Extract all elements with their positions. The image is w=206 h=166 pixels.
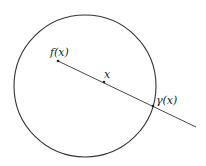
point-f-x — [57, 60, 60, 63]
label-gamma-x: γ(x) — [156, 94, 177, 107]
point-gamma-x — [152, 105, 155, 108]
point-x — [103, 81, 106, 84]
label-f-x: f(x) — [49, 46, 69, 59]
circle-domain — [14, 15, 156, 157]
label-x: x — [104, 68, 111, 81]
diagram-canvas: f(x) x γ(x) — [0, 0, 206, 166]
